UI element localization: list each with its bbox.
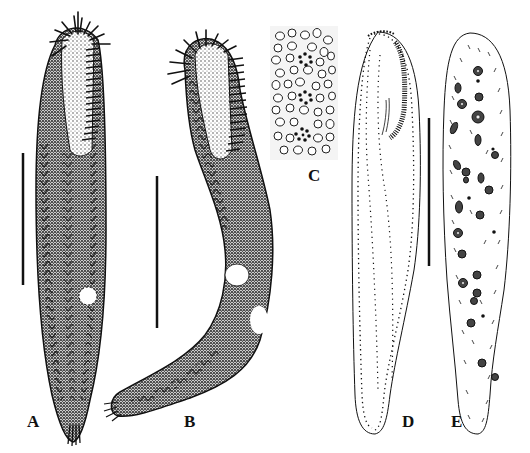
panel-label-b: B [184, 413, 195, 430]
panel-label-c: C [308, 167, 320, 184]
contractile-vacuole-b [225, 264, 249, 286]
contractile-vacuole-a [79, 287, 97, 305]
figure-canvas [0, 0, 530, 453]
panel-a-body [36, 12, 110, 446]
panel-c-cortical-granules [270, 26, 338, 160]
panel-d-ciliary-pattern [352, 31, 420, 434]
panel-e-nuclear-apparatus [443, 33, 511, 434]
panel-label-d: D [402, 413, 414, 430]
panel-label-a: A [27, 413, 39, 430]
panel-label-e: E [451, 413, 462, 430]
panel-b-body [104, 30, 273, 421]
